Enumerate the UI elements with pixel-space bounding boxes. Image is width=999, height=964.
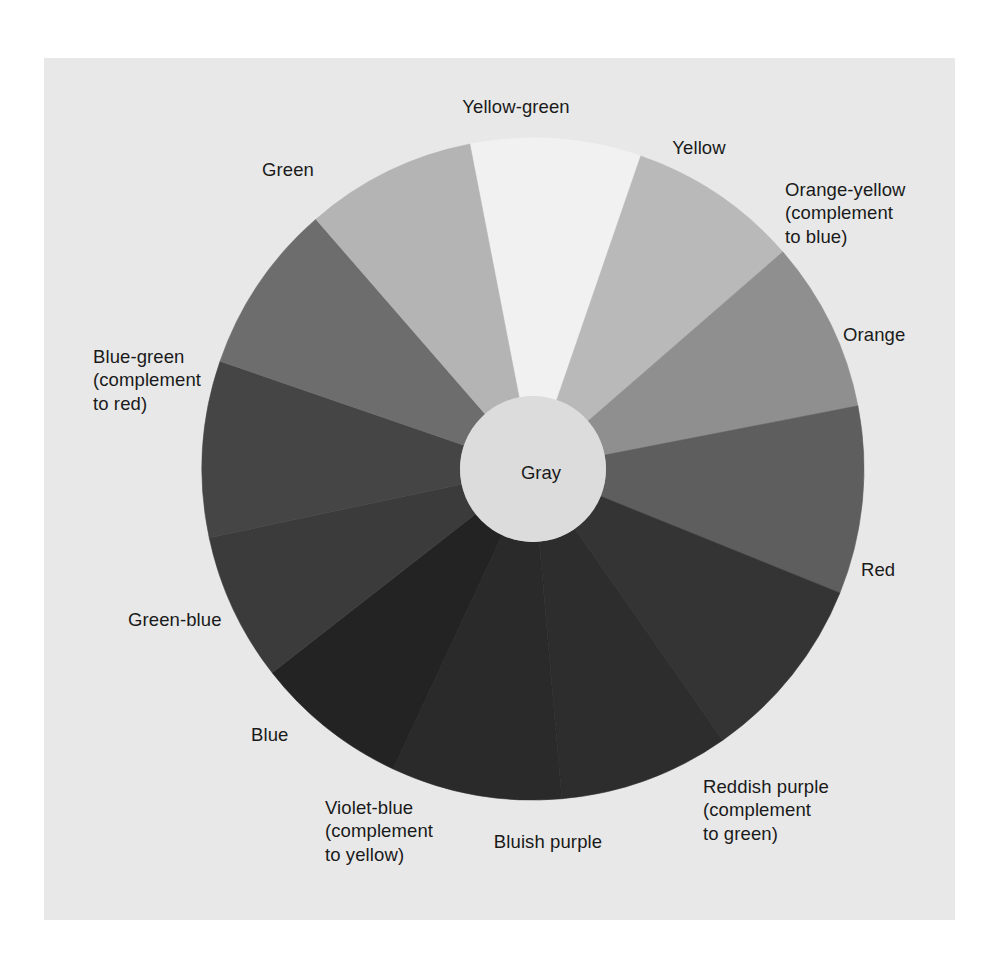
wheel-label-reddish-purple: Reddish purple (complement to green) [703, 775, 829, 845]
color-wheel-svg [0, 0, 999, 964]
hub-label: Gray [521, 462, 561, 484]
wheel-label-red: Red [861, 558, 895, 581]
wheel-label-orange-yellow: Orange-yellow (complement to blue) [785, 178, 906, 248]
wheel-label-yellow: Yellow [672, 136, 725, 159]
wheel-label-yellow-green: Yellow-green [462, 95, 569, 118]
wheel-label-bluish-purple: Bluish purple [494, 830, 602, 853]
wheel-label-blue: Blue [251, 723, 288, 746]
wheel-label-green: Green [262, 158, 314, 181]
wheel-label-violet-blue: Violet-blue (complement to yellow) [325, 796, 433, 866]
wheel-label-orange: Orange [843, 323, 905, 346]
wheel-label-blue-green: Blue-green (complement to red) [93, 345, 201, 415]
wheel-label-green-blue: Green-blue [128, 608, 222, 631]
color-wheel-figure: Gray Yellow-greenYellowOrange-yellow (co… [0, 0, 999, 964]
